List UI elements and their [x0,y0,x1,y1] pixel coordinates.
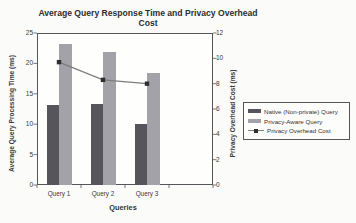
x-axis-category-label: Query 2 [81,190,125,198]
left-axis-tick-label: 25 [15,29,33,37]
right-axis-tick-label: 8 [216,80,230,88]
right-axis-label: Privacy Overhead Cost (ms) [230,69,237,157]
bar-privacy-aware-query-query-2 [103,52,116,185]
right-axis-tick-label: 10 [216,54,230,62]
legend: Native (Non-private) Query Privacy-Aware… [243,102,350,140]
legend-label: Privacy-Aware Query [264,118,322,125]
bar-native-non-private-query-query-1 [47,105,60,185]
left-axis-tick-label: 10 [15,120,33,128]
privacy-aware-query-bar-swatch-icon [248,119,261,123]
overhead-line-marker-swatch-icon [248,127,264,134]
chart-figure: Average Query Response Time and Privacy … [0,0,356,223]
left-axis-tick-label: 15 [15,90,33,98]
x-axis-category-label: Query 1 [37,190,81,198]
right-axis-tick-label: 4 [216,130,230,138]
native-query-bar-swatch-icon [248,109,261,113]
legend-label: Native (Non-private) Query [264,108,338,115]
left-axis-label: Average Query Processing Time (ms) [8,55,15,172]
left-axis-tick-label: 20 [15,59,33,67]
bar-native-non-private-query-query-3 [135,124,148,185]
bar-native-non-private-query-query-2 [91,104,104,185]
chart-title: Average Query Response Time and Privacy … [30,8,266,28]
x-axis-category-label: Query 3 [125,190,169,198]
right-axis-tick-label: 6 [216,105,230,113]
right-axis-tick-label: 2 [216,156,230,164]
right-axis-tick-label: 12 [216,29,230,37]
bar-privacy-aware-query-query-1 [59,44,72,185]
legend-item-privacy-aware-query: Privacy-Aware Query [248,118,345,125]
legend-label: Privacy Overhead Cost [267,127,331,134]
legend-item-native-nonprivate-query: Native (Non-private) Query [248,108,345,115]
left-axis-tick-label: 5 [15,151,33,159]
x-axis-title: Queries [83,203,163,212]
bar-privacy-aware-query-query-3 [147,73,160,185]
right-axis-tick-label: 0 [216,181,230,189]
left-axis-tick-label: 0 [15,181,33,189]
legend-item-privacy-overhead-cost: Privacy Overhead Cost [248,127,345,134]
